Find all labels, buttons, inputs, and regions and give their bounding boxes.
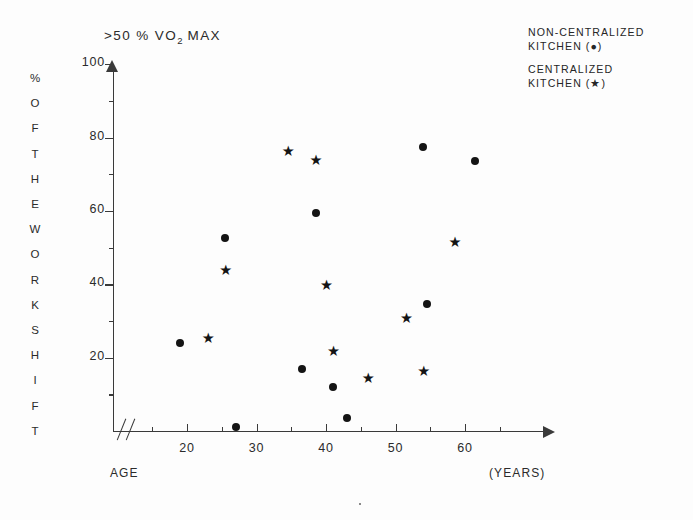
data-point-non-centralized [471, 157, 479, 165]
y-axis-tick-label: 40 [69, 275, 105, 289]
y-axis-minor-tick [109, 394, 114, 395]
data-point-non-centralized [176, 339, 184, 347]
y-axis-minor-tick [109, 101, 114, 102]
y-axis-tick-label: 100 [69, 55, 105, 69]
x-axis-minor-tick [291, 427, 292, 432]
x-axis-tick [396, 424, 397, 432]
x-axis-minor-tick [430, 427, 431, 432]
x-axis-line [113, 431, 550, 432]
y-axis-tick [105, 64, 114, 65]
data-point-non-centralized [329, 383, 337, 391]
chart-figure: >50 % VO2 MAX NON-CENTRALIZED KITCHEN (●… [0, 0, 693, 520]
y-axis-tick [105, 284, 114, 285]
x-axis-arrow-icon [543, 426, 555, 438]
data-point-non-centralized [298, 365, 306, 373]
data-point-non-centralized [312, 209, 320, 217]
data-point-non-centralized [232, 423, 240, 431]
x-axis-tick-label: 60 [448, 441, 482, 455]
page-speck [359, 503, 361, 505]
y-axis-minor-tick [109, 321, 114, 322]
plot-area: 204060801002030405060 ★★★★★★★★★★ [0, 0, 693, 520]
y-axis-tick [105, 211, 114, 212]
x-axis-tick [257, 424, 258, 432]
x-axis-minor-tick [500, 427, 501, 432]
x-axis-title: AGE [110, 466, 139, 480]
x-axis-tick-label: 20 [170, 441, 204, 455]
x-axis-minor-tick [222, 427, 223, 432]
data-point-non-centralized [423, 300, 431, 308]
y-axis-tick-label: 80 [69, 129, 105, 143]
y-axis-minor-tick [109, 248, 114, 249]
x-axis-tick [187, 424, 188, 432]
data-point-non-centralized [221, 234, 229, 242]
y-axis-tick-label: 20 [69, 349, 105, 363]
data-point-non-centralized [343, 414, 351, 422]
x-axis-unit-label: (YEARS) [489, 466, 545, 480]
x-axis-tick [465, 424, 466, 432]
y-axis-tick [105, 138, 114, 139]
x-axis-tick-label: 40 [309, 441, 343, 455]
y-axis-minor-tick [109, 174, 114, 175]
data-point-non-centralized [419, 143, 427, 151]
y-axis-arrow-icon [106, 60, 118, 72]
y-axis-tick [105, 358, 114, 359]
x-axis-tick-label: 30 [240, 441, 274, 455]
axis-break-icon [119, 418, 141, 442]
x-axis-minor-tick [152, 427, 153, 432]
x-axis-tick-label: 50 [379, 441, 413, 455]
y-axis-line [113, 66, 114, 432]
x-axis-minor-tick [361, 427, 362, 432]
y-axis-tick-label: 60 [69, 202, 105, 216]
x-axis-tick [326, 424, 327, 432]
